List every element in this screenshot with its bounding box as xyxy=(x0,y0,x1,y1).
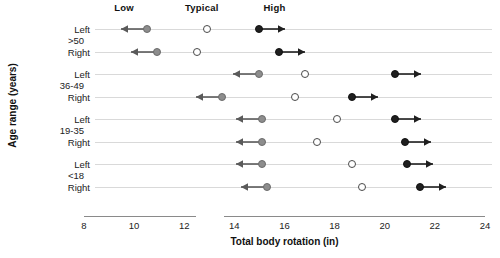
row-label-36-49-Right: Right xyxy=(36,91,90,102)
x-tick-8: 8 xyxy=(81,220,86,231)
row-label->50-Right: Right xyxy=(36,46,90,57)
high-marker xyxy=(401,138,409,146)
low-marker xyxy=(258,160,266,168)
high-marker xyxy=(403,160,411,168)
y-axis-title: Age range (years) xyxy=(7,56,18,156)
row-label-<18-Left: Left xyxy=(36,159,90,170)
group-label-<18: <18 xyxy=(0,170,84,181)
high-marker xyxy=(348,93,356,101)
x-tick-18: 18 xyxy=(329,220,340,231)
column-header-low: Low xyxy=(114,2,134,13)
high-marker xyxy=(391,70,399,78)
group-label-19-35: 19-35 xyxy=(0,125,84,136)
typical-marker xyxy=(348,160,356,168)
column-header-typical: Typical xyxy=(185,2,218,13)
x-axis-line-1 xyxy=(224,216,485,217)
low-marker xyxy=(143,25,151,33)
x-tick-10: 10 xyxy=(129,220,140,231)
typical-marker xyxy=(313,138,321,146)
typical-marker xyxy=(333,115,341,123)
typical-marker xyxy=(291,93,299,101)
low-marker xyxy=(258,138,266,146)
typical-marker xyxy=(358,183,366,191)
x-axis-title: Total body rotation (in) xyxy=(230,236,338,247)
high-marker xyxy=(255,25,263,33)
low-marker xyxy=(153,48,161,56)
x-axis-line-0 xyxy=(84,216,196,217)
column-header-high: High xyxy=(264,2,286,13)
typical-marker xyxy=(203,25,211,33)
low-marker xyxy=(263,183,271,191)
high-marker xyxy=(275,48,283,56)
low-marker xyxy=(218,93,226,101)
high-marker xyxy=(416,183,424,191)
row-label-19-35-Right: Right xyxy=(36,136,90,147)
x-tick-14: 14 xyxy=(229,220,240,231)
low-marker xyxy=(258,115,266,123)
row-label-<18-Right: Right xyxy=(36,181,90,192)
row-label-36-49-Left: Left xyxy=(36,69,90,80)
group-label-36-49: 36-49 xyxy=(0,80,84,91)
row-gridline xyxy=(95,29,492,30)
high-marker xyxy=(391,115,399,123)
row-label->50-Left: Left xyxy=(36,24,90,35)
group-label->50: >50 xyxy=(0,35,84,46)
typical-marker xyxy=(193,48,201,56)
typical-marker xyxy=(301,70,309,78)
row-gridline xyxy=(95,119,492,120)
chart-canvas: LowTypicalHighAge range (years)LeftRight… xyxy=(0,0,500,258)
x-tick-12: 12 xyxy=(179,220,190,231)
row-label-19-35-Left: Left xyxy=(36,114,90,125)
x-tick-22: 22 xyxy=(430,220,441,231)
x-tick-20: 20 xyxy=(379,220,390,231)
low-marker xyxy=(255,70,263,78)
x-tick-24: 24 xyxy=(480,220,491,231)
x-tick-16: 16 xyxy=(279,220,290,231)
row-gridline xyxy=(95,74,492,75)
